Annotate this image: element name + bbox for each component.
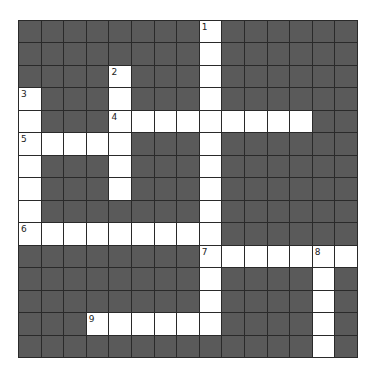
crossword-cell-open[interactable]: 1: [200, 21, 222, 42]
crossword-cell-block: [64, 268, 86, 289]
crossword-cell-block: [177, 336, 199, 357]
crossword-cell-block: [222, 133, 244, 154]
crossword-cell-block: [155, 291, 177, 312]
crossword-cell-block: [64, 111, 86, 132]
clue-number: 3: [21, 89, 27, 99]
crossword-cell-open[interactable]: [19, 156, 41, 177]
crossword-cell-open[interactable]: [132, 111, 154, 132]
crossword-cell-block: [268, 336, 290, 357]
clue-number: 9: [89, 314, 95, 324]
crossword-cell-block: [64, 156, 86, 177]
crossword-cell-open[interactable]: [19, 178, 41, 199]
crossword-cell-block: [87, 268, 109, 289]
crossword-cell-open[interactable]: [87, 223, 109, 244]
crossword-cell-open[interactable]: 8: [313, 246, 335, 267]
crossword-cell-block: [313, 43, 335, 64]
crossword-cell-open[interactable]: [335, 246, 357, 267]
crossword-cell-open[interactable]: [109, 133, 131, 154]
crossword-cell-block: [313, 133, 335, 154]
crossword-cell-open[interactable]: [200, 66, 222, 87]
crossword-cell-block: [132, 268, 154, 289]
crossword-cell-open[interactable]: [155, 111, 177, 132]
crossword-cell-block: [222, 268, 244, 289]
crossword-cell-block: [245, 313, 267, 334]
crossword-cell-open[interactable]: [109, 313, 131, 334]
crossword-cell-open[interactable]: [313, 336, 335, 357]
crossword-cell-open[interactable]: [290, 246, 312, 267]
crossword-cell-open[interactable]: [313, 268, 335, 289]
crossword-cell-block: [268, 66, 290, 87]
crossword-cell-open[interactable]: [109, 156, 131, 177]
crossword-cell-open[interactable]: 3: [19, 88, 41, 109]
crossword-cell-open[interactable]: [177, 111, 199, 132]
crossword-cell-block: [290, 313, 312, 334]
crossword-cell-open[interactable]: [200, 201, 222, 222]
crossword-cell-open[interactable]: [155, 223, 177, 244]
crossword-cell-open[interactable]: [132, 313, 154, 334]
crossword-cell-open[interactable]: 4: [109, 111, 131, 132]
crossword-cell-open[interactable]: [19, 111, 41, 132]
crossword-cell-open[interactable]: [200, 178, 222, 199]
crossword-cell-open[interactable]: [222, 246, 244, 267]
crossword-cell-block: [109, 336, 131, 357]
crossword-cell-open[interactable]: [200, 268, 222, 289]
crossword-cell-open[interactable]: [200, 313, 222, 334]
crossword-cell-open[interactable]: [109, 178, 131, 199]
crossword-cell-block: [19, 66, 41, 87]
crossword-cell-open[interactable]: [109, 223, 131, 244]
clue-number: 8: [315, 247, 321, 257]
crossword-cell-block: [290, 66, 312, 87]
crossword-cell-block: [245, 43, 267, 64]
crossword-cell-open[interactable]: 2: [109, 66, 131, 87]
crossword-cell-open[interactable]: [222, 111, 244, 132]
crossword-cell-block: [109, 246, 131, 267]
crossword-cell-open[interactable]: [200, 156, 222, 177]
crossword-cell-open[interactable]: [200, 43, 222, 64]
crossword-cell-open[interactable]: [200, 88, 222, 109]
crossword-cell-block: [64, 313, 86, 334]
crossword-cell-open[interactable]: 7: [200, 246, 222, 267]
crossword-cell-block: [177, 133, 199, 154]
crossword-cell-open[interactable]: [177, 223, 199, 244]
crossword-cell-open[interactable]: [245, 111, 267, 132]
crossword-cell-block: [132, 291, 154, 312]
crossword-cell-block: [87, 291, 109, 312]
crossword-cell-block: [335, 21, 357, 42]
crossword-cell-block: [245, 223, 267, 244]
crossword-cell-open[interactable]: 6: [19, 223, 41, 244]
crossword-cell-open[interactable]: [87, 133, 109, 154]
crossword-cell-open[interactable]: [42, 133, 64, 154]
crossword-cell-block: [87, 178, 109, 199]
crossword-cell-open[interactable]: [200, 111, 222, 132]
crossword-cell-block: [177, 291, 199, 312]
crossword-cell-block: [268, 88, 290, 109]
crossword-cell-open[interactable]: [19, 201, 41, 222]
crossword-cell-block: [42, 21, 64, 42]
crossword-cell-open[interactable]: [245, 246, 267, 267]
crossword-cell-open[interactable]: 5: [19, 133, 41, 154]
crossword-cell-open[interactable]: 9: [87, 313, 109, 334]
crossword-cell-block: [132, 88, 154, 109]
crossword-cell-block: [64, 246, 86, 267]
crossword-cell-block: [268, 268, 290, 289]
crossword-cell-open[interactable]: [155, 313, 177, 334]
crossword-cell-block: [19, 291, 41, 312]
crossword-cell-block: [245, 178, 267, 199]
crossword-cell-open[interactable]: [42, 223, 64, 244]
crossword-cell-open[interactable]: [200, 291, 222, 312]
crossword-cell-open[interactable]: [64, 133, 86, 154]
crossword-cell-open[interactable]: [268, 111, 290, 132]
crossword-cell-block: [313, 66, 335, 87]
crossword-cell-open[interactable]: [268, 246, 290, 267]
crossword-cell-open[interactable]: [313, 291, 335, 312]
crossword-cell-open[interactable]: [200, 223, 222, 244]
clue-number: 1: [202, 22, 208, 32]
crossword-cell-open[interactable]: [132, 223, 154, 244]
crossword-cell-open[interactable]: [64, 223, 86, 244]
crossword-cell-open[interactable]: [290, 111, 312, 132]
crossword-cell-open[interactable]: [313, 313, 335, 334]
crossword-cell-open[interactable]: [200, 133, 222, 154]
crossword-cell-open[interactable]: [109, 88, 131, 109]
crossword-cell-open[interactable]: [177, 313, 199, 334]
crossword-cell-block: [64, 43, 86, 64]
